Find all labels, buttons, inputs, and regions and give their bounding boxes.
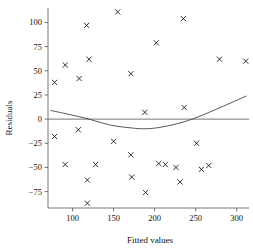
x-axis-title: Fitted values — [127, 235, 174, 245]
lowess-smooth-curve — [50, 96, 246, 129]
data-point-marker — [115, 9, 120, 14]
data-point-marker — [173, 165, 178, 170]
x-tick-label: 150 — [107, 213, 120, 223]
data-point-marker — [243, 59, 248, 64]
data-point-marker — [143, 190, 148, 195]
y-tick-label: 50 — [34, 66, 43, 76]
data-point-marker — [154, 40, 159, 45]
data-point-marker — [76, 127, 81, 132]
data-point-marker — [77, 76, 82, 81]
data-point-marker — [199, 167, 204, 172]
data-point-marker — [142, 110, 147, 115]
data-point-marker — [85, 201, 90, 206]
lowess-curve-path — [50, 96, 246, 129]
x-axis: 100150200250300 — [48, 208, 249, 223]
data-point-marker — [194, 141, 199, 146]
data-point-marker — [129, 174, 134, 179]
data-points — [52, 9, 248, 206]
x-tick-label: 250 — [189, 213, 202, 223]
x-tick-label: 100 — [66, 213, 79, 223]
y-tick-label: 75 — [34, 42, 43, 52]
data-point-marker — [177, 179, 182, 184]
data-point-marker — [93, 162, 98, 167]
data-point-marker — [128, 71, 133, 76]
data-point-marker — [52, 134, 57, 139]
y-tick-label: 25 — [34, 90, 43, 100]
y-tick-label: 0 — [38, 114, 42, 124]
data-point-marker — [163, 162, 168, 167]
y-tick-label: −75 — [29, 187, 42, 197]
residual-plot: 1007550250−25−50−75 100150200250300 Fitt… — [0, 0, 253, 252]
data-point-marker — [63, 62, 68, 67]
data-point-marker — [85, 177, 90, 182]
data-point-marker — [156, 161, 161, 166]
data-point-marker — [111, 139, 116, 144]
y-tick-label: −25 — [29, 138, 42, 148]
data-point-marker — [63, 162, 68, 167]
data-point-marker — [86, 57, 91, 62]
data-point-marker — [181, 16, 186, 21]
y-tick-label: −50 — [29, 162, 42, 172]
data-point-marker — [52, 80, 57, 85]
x-tick-label: 300 — [230, 213, 243, 223]
data-point-marker — [182, 105, 187, 110]
data-point-marker — [128, 152, 133, 157]
y-tick-label: 100 — [29, 17, 42, 27]
data-point-marker — [217, 57, 222, 62]
scatter-plot-canvas: 1007550250−25−50−75 100150200250300 Fitt… — [0, 0, 253, 252]
data-point-marker — [206, 163, 211, 168]
data-point-marker — [84, 23, 89, 28]
y-axis-title: Residuals — [4, 100, 14, 135]
x-tick-label: 200 — [148, 213, 161, 223]
y-axis: 1007550250−25−50−75 — [29, 8, 48, 208]
